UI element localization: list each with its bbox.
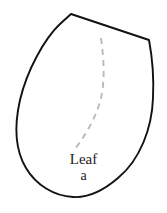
figure-caption-label: Leaf xyxy=(0,152,167,167)
figure-caption-index: a xyxy=(0,169,167,183)
leaf-diagram-figure: Leaf a xyxy=(0,0,167,213)
bottom-edge-band xyxy=(0,210,167,213)
